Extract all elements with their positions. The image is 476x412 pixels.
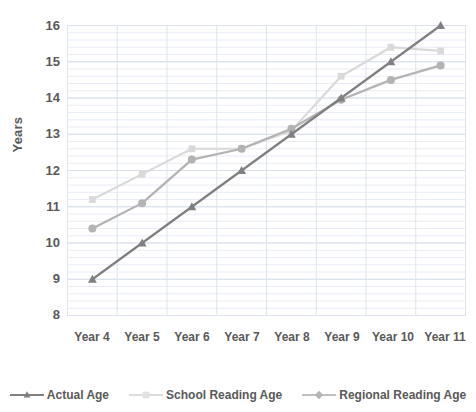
data-point — [138, 199, 146, 207]
legend-label-school-reading-age: School Reading Age — [166, 388, 282, 402]
data-point — [139, 171, 146, 178]
data-point — [188, 156, 196, 164]
legend-marker-square-icon — [129, 388, 163, 402]
chart-legend: Actual Age School Reading Age Regional R… — [0, 388, 476, 402]
data-point — [387, 44, 394, 51]
legend-label-regional-reading-age: Regional Reading Age — [339, 388, 466, 402]
legend-item-regional-reading-age[interactable]: Regional Reading Age — [302, 388, 466, 402]
data-point — [338, 73, 345, 80]
data-point — [437, 47, 444, 54]
data-point — [437, 61, 445, 69]
legend-item-actual-age[interactable]: Actual Age — [10, 388, 109, 402]
data-point — [238, 145, 246, 153]
plot-area — [0, 0, 476, 412]
line-chart: Years 16 15 14 13 12 11 10 9 8 Year 4 Ye… — [0, 0, 476, 412]
legend-marker-diamond-icon — [302, 388, 336, 402]
data-point — [188, 145, 195, 152]
data-point — [88, 225, 96, 233]
legend-label-actual-age: Actual Age — [47, 388, 109, 402]
data-point — [387, 76, 395, 84]
legend-item-school-reading-age[interactable]: School Reading Age — [129, 388, 282, 402]
legend-marker-triangle-icon — [10, 388, 44, 402]
data-point — [89, 196, 96, 203]
